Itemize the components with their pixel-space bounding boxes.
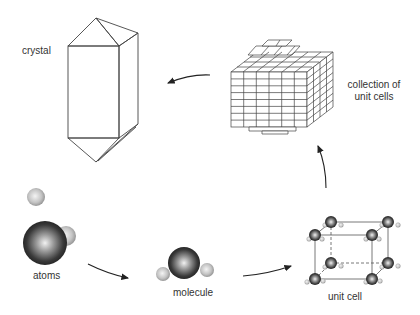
label-collection-of-unit-cells: collection of unit cells bbox=[338, 79, 410, 103]
crystal-illustration bbox=[68, 18, 138, 162]
molecule-illustration bbox=[156, 247, 214, 281]
arrow-unitcell-to-collection bbox=[318, 146, 326, 188]
label-collection-line2: unit cells bbox=[338, 91, 410, 103]
arrow-atoms-to-molecule bbox=[88, 264, 128, 278]
label-collection-line1: collection of bbox=[338, 79, 410, 91]
label-crystal: crystal bbox=[22, 45, 51, 57]
unit-cell-collection-illustration bbox=[231, 40, 333, 134]
label-unit-cell: unit cell bbox=[328, 291, 362, 303]
arrow-molecule-to-unitcell bbox=[243, 266, 291, 276]
label-atoms: atoms bbox=[33, 270, 60, 282]
unit-cell-illustration bbox=[305, 216, 401, 285]
label-molecule: molecule bbox=[173, 287, 213, 299]
diagram-canvas bbox=[0, 0, 420, 315]
arrow-collection-to-crystal bbox=[168, 75, 210, 83]
atoms-illustration bbox=[23, 188, 76, 265]
